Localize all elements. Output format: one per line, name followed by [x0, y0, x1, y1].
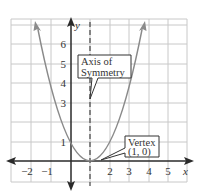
parabola-graph: −2 −1 2 3 4 5 x 1 3 4 5 6 y Axis of Symm…	[0, 0, 203, 193]
y-tick-label: 5	[61, 58, 67, 70]
x-tick-label: 3	[126, 165, 132, 177]
y-tick-label: 3	[61, 97, 67, 109]
x-tick-label: −1	[41, 165, 53, 177]
y-tick-label: 6	[61, 38, 67, 50]
y-axis-label: y	[74, 19, 80, 31]
y-axis	[67, 17, 75, 191]
x-tick-label: −2	[21, 165, 33, 177]
callout-line-2: Symmetry	[81, 67, 125, 78]
callout-line-2: (1, 0)	[128, 146, 151, 158]
y-tick-label: 4	[61, 77, 67, 89]
x-tick-label: 2	[107, 165, 113, 177]
x-axis	[6, 157, 194, 165]
y-tick-label: 1	[61, 136, 67, 148]
x-tick-label: 4	[146, 165, 152, 177]
callout-line-1: Axis of	[81, 56, 113, 67]
x-axis-label: x	[182, 165, 188, 177]
x-tick-label: 5	[165, 165, 171, 177]
x-tick-labels: −2 −1 2 3 4 5	[21, 165, 171, 177]
axis-of-symmetry-callout: Axis of Symmetry	[78, 55, 131, 99]
